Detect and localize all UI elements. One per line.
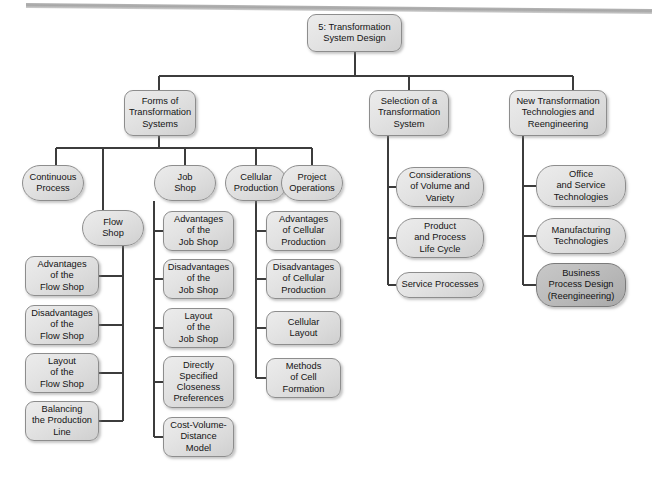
diagram-node-label: Layout of the Flow Shop	[37, 356, 87, 390]
diagram-node-js_close[interactable]: Directly Specified Closeness Preferences	[163, 356, 234, 408]
diagram-canvas: 5: Transformation System DesignForms of …	[0, 0, 659, 488]
diagram-node-cp_lay[interactable]: Cellular Layout	[266, 311, 341, 345]
diagram-node-label: Continuous Process	[26, 172, 79, 194]
diagram-node-fs_lay[interactable]: Layout of the Flow Shop	[25, 353, 99, 393]
diagram-node-nt_manuf[interactable]: Manufacturing Technologies	[536, 218, 626, 254]
diagram-node-sel_life[interactable]: Product and Process Life Cycle	[396, 218, 484, 258]
diagram-node-label: 5: Transformation System Design	[315, 22, 393, 44]
diagram-node-label: Cellular Layout	[285, 317, 323, 339]
diagram-node-cp_meth[interactable]: Methods of Cell Formation	[266, 358, 341, 398]
diagram-node-fs_dis[interactable]: Disadvantages of the Flow Shop	[25, 305, 99, 345]
diagram-node-label: Disadvantages of the Job Shop	[165, 262, 233, 296]
diagram-node-label: Methods of Cell Formation	[280, 361, 328, 395]
diagram-node-root[interactable]: 5: Transformation System Design	[307, 14, 402, 52]
diagram-node-newtech[interactable]: New Transformation Technologies and Reen…	[509, 90, 607, 136]
diagram-node-sel_vol[interactable]: Considerations of Volume and Variety	[396, 167, 484, 207]
diagram-node-forms[interactable]: Forms of Transformation Systems	[124, 90, 196, 136]
diagram-node-label: Flow Shop	[99, 217, 127, 239]
diagram-node-label: Office and Service Technologies	[551, 169, 611, 203]
diagram-node-fs_bal[interactable]: Balancing the Production Line	[25, 401, 99, 441]
diagram-node-label: Layout of the Job Shop	[176, 311, 221, 345]
diagram-node-js_cvd[interactable]: Cost-Volume- Distance Model	[163, 417, 234, 457]
diagram-node-label: Advantages of the Job Shop	[171, 214, 226, 248]
diagram-node-fs_adv[interactable]: Advantages of the Flow Shop	[25, 256, 99, 296]
diagram-node-label: Business Process Design (Reengineering)	[545, 268, 618, 302]
diagram-node-sel_serv[interactable]: Service Processes	[396, 272, 484, 298]
diagram-node-label: Disadvantages of the Flow Shop	[28, 308, 96, 342]
diagram-node-selection[interactable]: Selection of a Transformation System	[369, 90, 449, 136]
diagram-node-js_lay[interactable]: Layout of the Job Shop	[163, 308, 234, 348]
diagram-node-label: Project Operations	[286, 172, 337, 194]
diagram-node-nt_bpr[interactable]: Business Process Design (Reengineering)	[536, 263, 626, 307]
diagram-node-label: Job Shop	[171, 172, 199, 194]
diagram-node-label: Forms of Transformation Systems	[126, 96, 194, 130]
diagram-node-nt_office[interactable]: Office and Service Technologies	[536, 165, 626, 207]
diagram-node-label: Selection of a Transformation System	[375, 96, 443, 130]
diagram-node-cellular[interactable]: Cellular Production	[225, 165, 287, 201]
diagram-node-flowshop[interactable]: Flow Shop	[82, 210, 144, 246]
diagram-node-label: Directly Specified Closeness Preferences	[170, 360, 226, 405]
diagram-node-label: Considerations of Volume and Variety	[406, 170, 474, 204]
diagram-node-cp_adv[interactable]: Advantages of Cellular Production	[266, 211, 341, 251]
diagram-node-cp_dis[interactable]: Disadvantages of Cellular Production	[266, 259, 341, 299]
diagram-node-label: Disadvantages of Cellular Production	[270, 262, 338, 296]
diagram-node-label: Service Processes	[399, 279, 482, 290]
diagram-node-label: New Transformation Technologies and Reen…	[513, 96, 602, 130]
diagram-node-label: Balancing the Production Line	[29, 404, 95, 438]
diagram-node-label: Product and Process Life Cycle	[411, 221, 469, 255]
diagram-node-project[interactable]: Project Operations	[281, 165, 343, 201]
diagram-node-js_dis[interactable]: Disadvantages of the Job Shop	[163, 259, 234, 299]
diagram-node-label: Cost-Volume- Distance Model	[167, 420, 229, 454]
diagram-node-label: Manufacturing Technologies	[549, 225, 614, 247]
diagram-node-label: Advantages of Cellular Production	[276, 214, 331, 248]
diagram-node-jobshop[interactable]: Job Shop	[154, 165, 216, 201]
diagram-node-label: Cellular Production	[231, 172, 281, 194]
diagram-node-label: Advantages of the Flow Shop	[34, 259, 89, 293]
diagram-node-js_adv[interactable]: Advantages of the Job Shop	[163, 211, 234, 251]
diagram-node-continuous[interactable]: Continuous Process	[22, 165, 84, 201]
